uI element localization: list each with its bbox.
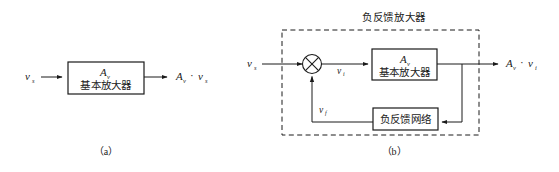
panel-a-input-symbol: v (25, 70, 30, 82)
panel-b-gain-symbol: A (399, 53, 407, 65)
figure-svg-canvas: v s A v 基本放大器 A v · v s （a） (0, 0, 559, 172)
summing-junction-icon (303, 55, 322, 74)
panel-b-output-label: A v · v i (505, 56, 537, 71)
panel-a-output-signal-subscript: s (205, 77, 208, 84)
panel-a-output-signal-symbol: v (198, 70, 203, 82)
panel-b-output-gain-symbol: A (505, 57, 513, 69)
panel-a-output-gain-subscript: v (183, 77, 186, 84)
panel-a-amplifier-name: 基本放大器 (80, 79, 132, 91)
panel-b-output-signal-symbol: v (528, 57, 533, 69)
panel-a-output-label: A v · v s (175, 69, 208, 84)
panel-b-feedback-symbol: v (319, 105, 324, 115)
panel-a-group: v s A v 基本放大器 A v · v s （a） (25, 62, 208, 157)
panel-b-input-symbol: v (247, 57, 252, 69)
panel-b-input-subscript: s (254, 64, 257, 71)
panel-b-title: 负反馈放大器 (362, 11, 426, 23)
panel-a-input-label: v s (25, 70, 35, 84)
panel-b-error-label: v i (337, 66, 345, 77)
panel-a-input-subscript: s (32, 77, 35, 84)
panel-b-output-operator: · (520, 56, 524, 68)
figure-block-diagram-container: v s A v 基本放大器 A v · v s （a） (0, 0, 559, 172)
panel-b-output-signal-subscript: i (535, 64, 537, 71)
panel-a-output-operator: · (190, 69, 194, 81)
panel-b-output-gain-subscript: v (513, 64, 516, 71)
panel-b-error-subscript: i (343, 71, 345, 77)
panel-b-feedback-subscript: f (325, 110, 328, 116)
panel-a-output-gain-symbol: A (175, 70, 183, 82)
panel-a-caption: （a） (94, 146, 118, 157)
panel-b-feedback-label: v f (319, 105, 328, 116)
panel-b-feedback-name: 负反馈网络 (380, 113, 432, 125)
panel-a-gain-symbol: A (99, 66, 107, 78)
panel-b-input-label: v s (247, 57, 257, 71)
panel-b-group: 负反馈放大器 v s v i (247, 11, 537, 157)
panel-b-caption: （b） (382, 146, 407, 157)
panel-b-error-symbol: v (337, 66, 342, 76)
panel-b-amplifier-name: 基本放大器 (379, 66, 431, 78)
